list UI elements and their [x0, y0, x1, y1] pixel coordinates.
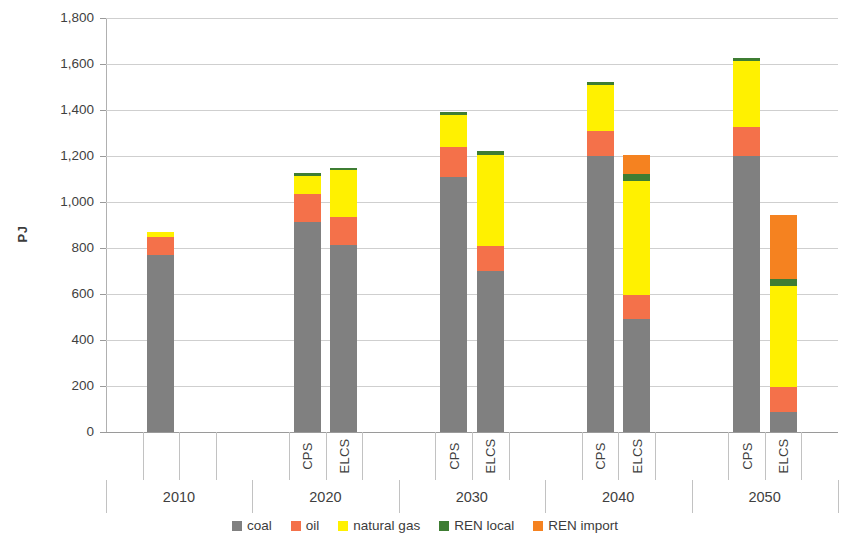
bar-2040-cps[interactable]	[587, 82, 614, 432]
year-label-2050: 2050	[692, 489, 838, 505]
legend-item-natural-gas[interactable]: natural gas	[338, 519, 420, 533]
bar-segment-natural-gas	[733, 61, 760, 128]
bar-segment-coal	[623, 319, 650, 432]
legend-label: oil	[306, 519, 320, 533]
legend-item-ren-local[interactable]: REN local	[439, 519, 514, 533]
y-axis-label: 400	[24, 333, 94, 347]
bar-segment-ren-local	[623, 174, 650, 181]
y-axis-tick	[100, 386, 106, 387]
legend-item-coal[interactable]: coal	[232, 519, 272, 533]
bar-segment-coal	[147, 255, 174, 432]
square-swatch-icon	[533, 521, 543, 531]
bar-segment-oil	[440, 147, 467, 177]
y-axis-label: 1,800	[24, 11, 94, 25]
bar-2020-elcs[interactable]	[330, 168, 357, 432]
y-axis-label: 800	[24, 241, 94, 255]
scenario-separator	[216, 432, 217, 480]
gridline	[106, 294, 838, 295]
y-axis-label: 600	[24, 287, 94, 301]
bar-segment-natural-gas	[440, 115, 467, 147]
y-axis-label: 200	[24, 379, 94, 393]
scenario-label-elcs: ELCS	[466, 432, 514, 480]
bar-segment-oil	[733, 127, 760, 156]
y-axis-label: 1,000	[24, 195, 94, 209]
legend-item-ren-import[interactable]: REN import	[533, 519, 618, 533]
scenario-separator	[179, 432, 180, 480]
y-axis-tick	[100, 340, 106, 341]
bar-segment-oil	[147, 237, 174, 255]
bar-segment-coal	[770, 412, 797, 432]
y-axis-label: 0	[24, 425, 94, 439]
bar-segment-natural-gas	[587, 85, 614, 131]
bar-segment-natural-gas	[623, 181, 650, 295]
year-label-2030: 2030	[399, 489, 545, 505]
square-swatch-icon	[232, 521, 242, 531]
gridline	[106, 386, 838, 387]
bar-segment-coal	[587, 156, 614, 432]
bar-2030-cps[interactable]	[440, 112, 467, 432]
bar-segment-natural-gas	[477, 155, 504, 246]
legend-label: coal	[247, 519, 272, 533]
bar-segment-oil	[330, 217, 357, 245]
legend-label: natural gas	[353, 519, 420, 533]
legend-label: REN local	[454, 519, 514, 533]
gridline	[106, 156, 838, 157]
bar-segment-ren-import	[770, 215, 797, 279]
gridline	[106, 110, 838, 111]
scenario-label-elcs: ELCS	[759, 432, 807, 480]
bar-segment-coal	[440, 177, 467, 432]
scenario-label-elcs: ELCS	[320, 432, 368, 480]
bar-segment-natural-gas	[330, 170, 357, 217]
bar-2050-elcs[interactable]	[770, 215, 797, 432]
y-axis-tick	[100, 110, 106, 111]
gridline	[106, 340, 838, 341]
bar-segment-ren-import	[623, 155, 650, 175]
year-label-2040: 2040	[545, 489, 691, 505]
bar-segment-natural-gas	[770, 286, 797, 387]
bar-segment-coal	[330, 245, 357, 432]
bar-2040-elcs[interactable]	[623, 155, 650, 432]
year-label-2010: 2010	[106, 489, 252, 505]
gridline	[106, 64, 838, 65]
bar-segment-oil	[477, 246, 504, 271]
year-label-2020: 2020	[252, 489, 398, 505]
bar-2020-cps[interactable]	[294, 173, 321, 432]
bar-segment-oil	[623, 295, 650, 319]
legend-item-oil[interactable]: oil	[291, 519, 320, 533]
bar-segment-oil	[770, 387, 797, 412]
y-axis-tick	[100, 156, 106, 157]
bar-segment-ren-local	[770, 279, 797, 286]
y-axis-label: 1,600	[24, 57, 94, 71]
bar-2010[interactable]	[147, 232, 174, 432]
bar-segment-oil	[587, 131, 614, 156]
bar-segment-coal	[733, 156, 760, 432]
square-swatch-icon	[338, 521, 348, 531]
scenario-label-elcs: ELCS	[613, 432, 661, 480]
gridline	[106, 202, 838, 203]
scenario-separator	[143, 432, 144, 480]
y-axis-tick	[100, 18, 106, 19]
bar-segment-coal	[477, 271, 504, 432]
bar-segment-oil	[294, 194, 321, 222]
y-axis-label: 1,200	[24, 149, 94, 163]
y-axis-tick	[100, 294, 106, 295]
bar-2050-cps[interactable]	[733, 58, 760, 432]
chart-legend: coaloilnatural gasREN localREN import	[0, 519, 850, 533]
y-axis-tick	[100, 64, 106, 65]
category-axis: 2010CPSELCS2020CPSELCS2030CPSELCS2040CPS…	[106, 432, 838, 513]
bar-2030-elcs[interactable]	[477, 151, 504, 432]
y-axis-tick	[100, 248, 106, 249]
year-separator	[838, 480, 839, 513]
gridline	[106, 18, 838, 19]
y-axis-tick	[100, 202, 106, 203]
y-axis-label: 1,400	[24, 103, 94, 117]
plot-area	[106, 18, 838, 432]
bar-segment-coal	[294, 222, 321, 432]
gridline	[106, 248, 838, 249]
bar-segment-natural-gas	[294, 176, 321, 194]
square-swatch-icon	[291, 521, 301, 531]
stacked-bar-chart: PJ 1,8001,6001,4001,2001,000800600400200…	[0, 0, 850, 543]
square-swatch-icon	[439, 521, 449, 531]
legend-label: REN import	[548, 519, 618, 533]
